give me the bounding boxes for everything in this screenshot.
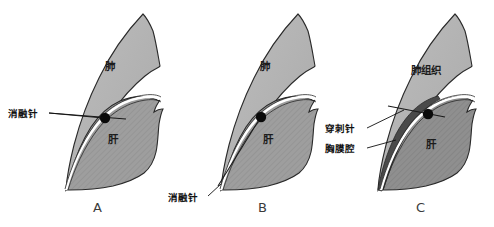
organ-label-lung-b: 肺 (260, 60, 271, 72)
panel-letter-a: A (93, 200, 102, 215)
panel-letter-b: B (258, 200, 267, 215)
three-panel-medical-figure: 消融针 肺 肝 A 消融针 肺 肝 B 穿刺针 胸膜腔 肺组 (0, 0, 494, 227)
organ-label-liver-a: 肝 (108, 133, 119, 145)
panel-letter-c: C (416, 200, 425, 215)
callout-label-ablation-needle-a: 消融针 (8, 108, 38, 119)
organ-label-liver-c: 肝 (426, 138, 437, 150)
callout-label-puncture-needle-c: 穿刺针 (325, 123, 355, 134)
organ-label-lung-a: 肺 (105, 60, 116, 72)
tumor-nodule-c (423, 109, 433, 119)
tumor-nodule-b (256, 112, 266, 122)
callout-label-pleural-cavity-c: 胸膜腔 (325, 143, 355, 154)
organ-label-liver-b: 肝 (263, 133, 274, 145)
callout-label-ablation-needle-b: 消融针 (168, 192, 198, 203)
organ-label-lung-tissue-c: 肺组织 (411, 64, 442, 76)
